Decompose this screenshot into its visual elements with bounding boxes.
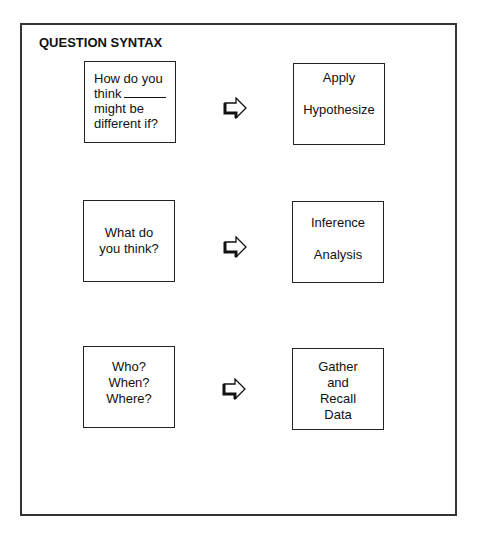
result-line: Hypothesize	[294, 102, 384, 117]
right-arrow-icon	[222, 236, 248, 258]
question-line: think	[94, 86, 175, 101]
question-line: different if?	[94, 116, 175, 131]
question-box-1: How do you think might be different if?	[84, 61, 176, 143]
result-line: Data	[293, 407, 383, 422]
result-line: Apply	[294, 70, 384, 85]
question-line: Who?	[84, 359, 174, 374]
question-line: How do you	[94, 71, 175, 86]
right-arrow-icon	[221, 378, 247, 400]
fill-in-blank	[124, 86, 166, 98]
diagram-title: QUESTION SYNTAX	[39, 35, 162, 50]
question-line: you think?	[84, 241, 174, 256]
result-box-2: Inference Analysis	[292, 201, 384, 283]
result-box-1: Apply Hypothesize	[293, 63, 385, 145]
result-box-3: Gather and Recall Data	[292, 348, 384, 430]
result-line: Recall	[293, 391, 383, 406]
question-box-2: What do you think?	[83, 200, 175, 282]
result-line: Analysis	[293, 247, 383, 262]
result-line: Inference	[293, 215, 383, 230]
result-line: and	[293, 375, 383, 390]
question-line: might be	[94, 101, 175, 116]
question-box-3: Who? When? Where?	[83, 346, 175, 428]
result-line: Gather	[293, 359, 383, 374]
question-line: Where?	[84, 391, 174, 406]
question-line: When?	[84, 375, 174, 390]
right-arrow-icon	[222, 97, 248, 119]
question-line: What do	[84, 225, 174, 240]
